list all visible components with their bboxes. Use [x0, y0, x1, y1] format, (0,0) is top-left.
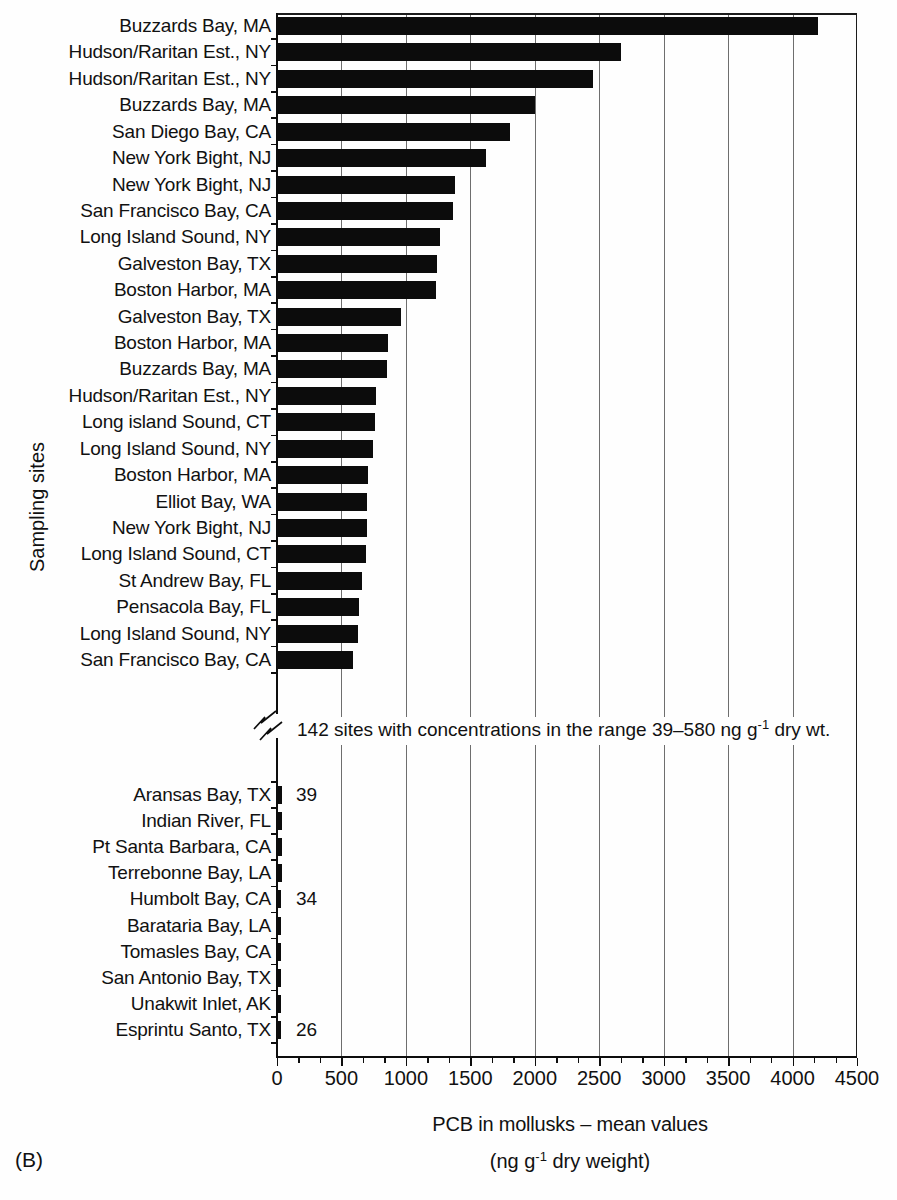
x-tick-label-1000: 1000	[384, 1066, 429, 1090]
y-axis-row-tick	[271, 833, 277, 835]
x-minor-tick	[363, 1058, 364, 1063]
axis-break-note: 142 sites with concentrations in the ran…	[294, 717, 833, 745]
bar-top-19	[278, 519, 367, 537]
site-label-top-8: Long Island Sound, NY	[0, 224, 271, 250]
bar-bottom-3	[278, 864, 282, 882]
x-minor-tick	[427, 1058, 428, 1063]
bar-top-13	[278, 360, 387, 378]
bar-value-label-26: 26	[296, 1017, 317, 1043]
y-axis-row-tick	[271, 276, 277, 278]
site-label-bottom-1: Indian River, FL	[0, 808, 271, 834]
x-major-tick-500	[341, 1058, 342, 1066]
x-minor-tick	[621, 1058, 622, 1063]
bar-top-0	[278, 17, 818, 35]
x-major-tick-4500	[857, 1058, 858, 1066]
pcb-mollusks-bar-chart: Buzzards Bay, MAHudson/Raritan Est., NYH…	[0, 0, 897, 1200]
x-tick-label-4000: 4000	[770, 1066, 815, 1090]
bar-top-20	[278, 545, 366, 563]
y-axis-row-tick	[271, 408, 277, 410]
bar-top-16	[278, 440, 373, 458]
y-axis-row-tick	[271, 964, 277, 966]
bar-top-1	[278, 43, 621, 61]
bar-top-24	[278, 651, 353, 669]
bar-top-22	[278, 598, 359, 616]
axis-break-icon	[251, 709, 291, 743]
site-label-top-4: San Diego Bay, CA	[0, 119, 271, 145]
y-axis-row-tick	[271, 91, 277, 93]
x-minor-tick	[578, 1058, 579, 1063]
gridline-2000	[535, 14, 536, 1056]
y-axis-row-tick	[271, 672, 277, 674]
plot-frame-right	[856, 13, 858, 1057]
x-minor-tick	[492, 1058, 493, 1063]
y-axis-row-tick	[271, 329, 277, 331]
site-label-top-15: Long island Sound, CT	[0, 409, 271, 435]
site-label-bottom-4: Humbolt Bay, CA	[0, 886, 271, 912]
site-label-bottom-9: Esprintu Santo, TX	[0, 1017, 271, 1043]
y-axis-row-tick	[271, 144, 277, 146]
x-minor-tick	[449, 1058, 450, 1063]
x-tick-label-4500: 4500	[835, 1066, 880, 1090]
y-axis-row-tick	[271, 1016, 277, 1018]
x-major-tick-2500	[599, 1058, 600, 1066]
plot-frame-top	[276, 13, 857, 15]
x-major-tick-3000	[664, 1058, 665, 1066]
site-label-bottom-6: Tomasles Bay, CA	[0, 939, 271, 965]
bar-bottom-7	[278, 969, 281, 987]
y-axis-row-tick	[271, 567, 277, 569]
site-label-bottom-5: Barataria Bay, LA	[0, 913, 271, 939]
x-minor-tick	[814, 1058, 815, 1063]
bar-top-7	[278, 202, 453, 220]
site-label-bottom-3: Terrebonne Bay, LA	[0, 860, 271, 886]
x-minor-tick	[513, 1058, 514, 1063]
y-axis-row-tick	[271, 807, 277, 809]
site-label-bottom-2: Pt Santa Barbara, CA	[0, 834, 271, 860]
bar-top-23	[278, 625, 358, 643]
bar-top-2	[278, 70, 593, 88]
y-axis-row-tick	[271, 38, 277, 40]
site-label-bottom-7: San Antonio Bay, TX	[0, 965, 271, 991]
bar-top-17	[278, 466, 368, 484]
y-axis-row-tick	[271, 250, 277, 252]
site-label-top-1: Hudson/Raritan Est., NY	[0, 39, 271, 65]
gridline-2500	[599, 14, 600, 1056]
gridline-1000	[406, 14, 407, 1056]
x-major-tick-1500	[470, 1058, 471, 1066]
bar-bottom-9	[278, 1021, 281, 1039]
y-axis-row-tick	[271, 859, 277, 861]
x-axis-units-superscript: -1	[535, 1149, 547, 1164]
x-minor-tick	[556, 1058, 557, 1063]
x-minor-tick	[750, 1058, 751, 1063]
y-axis-row-tick	[271, 487, 277, 489]
bar-value-label-39: 39	[296, 782, 317, 808]
y-axis-row-tick	[271, 593, 277, 595]
y-axis-row-tick	[271, 355, 277, 357]
bar-bottom-8	[278, 995, 281, 1013]
site-label-bottom-8: Unakwit Inlet, AK	[0, 991, 271, 1017]
site-label-top-3: Buzzards Bay, MA	[0, 92, 271, 118]
y-axis-row-tick	[271, 302, 277, 304]
site-label-top-13: Buzzards Bay, MA	[0, 356, 271, 382]
x-tick-label-2000: 2000	[513, 1066, 558, 1090]
x-tick-label-3500: 3500	[706, 1066, 751, 1090]
y-axis-row-tick	[271, 514, 277, 516]
bar-bottom-6	[278, 943, 281, 961]
y-axis-row-tick	[271, 461, 277, 463]
y-axis-row-tick	[271, 1042, 277, 1044]
y-axis-row-tick	[271, 197, 277, 199]
site-label-top-5: New York Bight, NJ	[0, 145, 271, 171]
x-minor-tick	[384, 1058, 385, 1063]
bar-bottom-5	[278, 917, 281, 935]
site-label-top-12: Boston Harbor, MA	[0, 330, 271, 356]
x-tick-label-500: 500	[325, 1066, 358, 1090]
bar-bottom-4	[278, 890, 281, 908]
bar-top-6	[278, 176, 455, 194]
gridline-3000	[664, 14, 665, 1056]
gridline-1500	[470, 14, 471, 1056]
x-minor-tick	[320, 1058, 321, 1063]
bar-top-8	[278, 228, 440, 246]
y-axis-row-tick	[271, 540, 277, 542]
y-axis-row-tick	[271, 938, 277, 940]
y-axis-row-tick	[271, 382, 277, 384]
bar-top-9	[278, 255, 437, 273]
